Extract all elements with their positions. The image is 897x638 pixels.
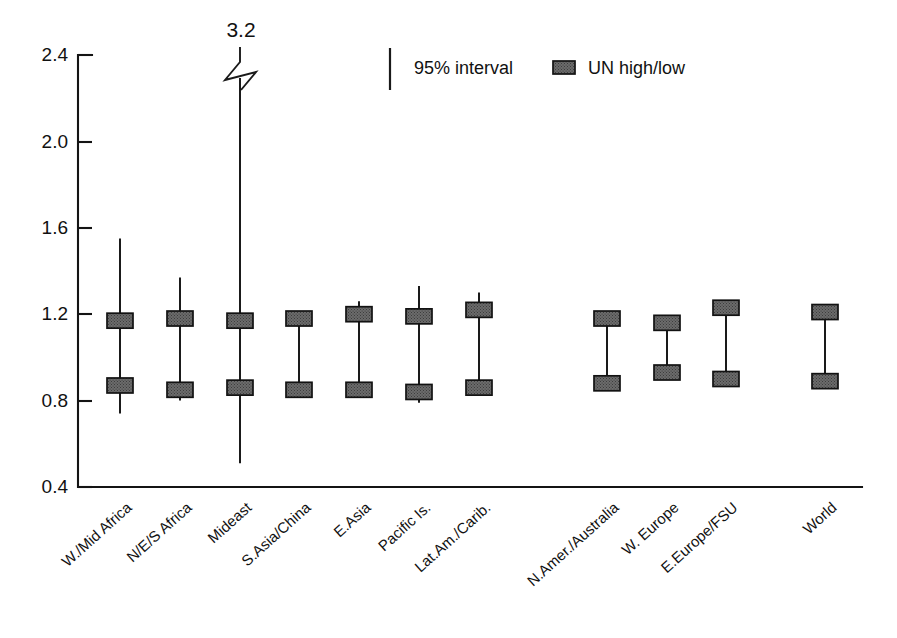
x-axis-category-labels: W./Mid AfricaN/E/S AfricaMideastS.Asia/C… (58, 498, 839, 589)
series-group (227, 78, 253, 463)
y-tick-label-1-2: 1.2 (42, 303, 68, 324)
un-low-marker (286, 382, 312, 397)
x-axis-label: E.Asia (330, 498, 374, 540)
x-axis-label: Pacific Is. (375, 499, 434, 555)
data-series-layer (107, 78, 838, 463)
x-axis-label: World (799, 499, 839, 538)
series-group (346, 301, 372, 397)
un-low-marker (167, 382, 193, 397)
legend-interval-label: 95% interval (414, 58, 513, 78)
y-axis-tick-labels: 2.4 2.0 1.6 1.2 0.8 0.4 (42, 44, 69, 497)
plot-axes: 2.4 2.0 1.6 1.2 0.8 0.4 (42, 44, 862, 497)
y-tick-label-1-6: 1.6 (42, 217, 68, 238)
y-tick-label-0-8: 0.8 (42, 390, 68, 411)
un-low-marker (406, 384, 432, 399)
series-group (167, 277, 193, 400)
un-high-marker (713, 300, 739, 315)
chart-container: 2.4 2.0 1.6 1.2 0.8 0.4 3.2 95% interval… (0, 0, 897, 638)
un-high-marker (107, 313, 133, 328)
series-group (286, 311, 312, 397)
un-low-marker (654, 365, 680, 380)
un-high-marker (654, 315, 680, 330)
x-axis-label: W./Mid Africa (58, 498, 135, 570)
un-low-marker (466, 380, 492, 395)
un-low-marker (107, 378, 133, 393)
series-group (406, 286, 432, 403)
series-group (107, 239, 133, 414)
x-axis-label: Mideast (204, 498, 255, 546)
y-tick-label-2-4: 2.4 (42, 44, 69, 65)
mideast-upper-value-label: 3.2 (226, 18, 255, 41)
y-tick-label-0-4: 0.4 (42, 476, 69, 497)
projection-interval-chart: 2.4 2.0 1.6 1.2 0.8 0.4 3.2 95% interval… (0, 0, 897, 638)
un-low-marker (346, 382, 372, 397)
series-group (594, 311, 620, 391)
series-group (466, 293, 492, 396)
y-axis-ticks (78, 55, 92, 487)
un-high-marker (406, 309, 432, 324)
y-tick-label-2-0: 2.0 (42, 131, 68, 152)
un-high-marker (167, 311, 193, 326)
chart-legend: 95% interval UN high/low (390, 48, 686, 90)
un-low-marker (812, 374, 838, 389)
legend-marker-label: UN high/low (588, 58, 686, 78)
un-high-marker (346, 307, 372, 322)
un-low-marker (227, 380, 253, 395)
un-low-marker (713, 372, 739, 387)
x-axis-label: N.Amer./Australia (524, 498, 623, 589)
un-high-marker (466, 302, 492, 317)
un-low-marker (594, 376, 620, 391)
series-group (812, 305, 838, 389)
series-group (654, 315, 680, 380)
y-axis-line (78, 55, 862, 487)
un-high-marker (812, 305, 838, 320)
series-group (713, 300, 739, 386)
un-high-marker (594, 311, 620, 326)
filled-rectangle-swatch-icon (553, 61, 575, 74)
un-high-marker (286, 311, 312, 326)
x-axis-label: N/E/S Africa (123, 498, 195, 565)
un-high-marker (227, 313, 253, 328)
